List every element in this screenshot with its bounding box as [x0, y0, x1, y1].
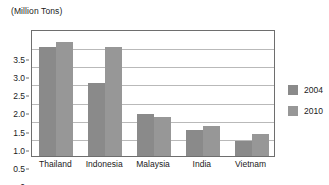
y-axis-tick: [26, 150, 29, 151]
bar-chart: (Million Tons) 3.53.02.52.01.51.00.50 Th…: [0, 0, 329, 185]
y-axis: 3.53.02.52.01.51.00.50: [0, 30, 29, 157]
legend: 20042010: [288, 82, 323, 124]
y-axis-tick: [26, 168, 29, 169]
y-axis-tick: [26, 60, 29, 61]
x-axis-tick-label: Vietnam: [235, 159, 266, 169]
y-axis-tick-label: 1.0: [13, 146, 25, 156]
y-axis-tick: [26, 96, 29, 97]
legend-swatch-icon: [288, 85, 298, 95]
y-axis-tick: [26, 78, 29, 79]
legend-item-2010[interactable]: 2010: [288, 103, 323, 119]
bar-indonesia-2004: [88, 83, 105, 156]
bars-layer: [32, 31, 274, 156]
x-axis-tick-label: Indonesia: [86, 159, 123, 169]
legend-item-2004[interactable]: 2004: [288, 82, 323, 98]
legend-label: 2010: [304, 106, 323, 116]
y-axis-tick-label: 2.5: [13, 91, 25, 101]
bar-vietnam-2004: [235, 141, 252, 156]
plot-area: [31, 30, 275, 157]
y-axis-tick: [26, 114, 29, 115]
y-axis-tick-label: 2.0: [13, 109, 25, 119]
bar-india-2004: [186, 130, 203, 156]
x-axis: ThailandIndonesiaMalaysiaIndiaVietnam: [31, 159, 275, 175]
x-axis-tick-label: Malaysia: [136, 159, 170, 169]
y-axis-tick-label: 1.5: [13, 128, 25, 138]
bar-india-2010: [203, 126, 220, 156]
bar-malaysia-2004: [137, 114, 154, 156]
bar-indonesia-2010: [105, 47, 122, 156]
bar-thailand-2010: [56, 42, 73, 156]
y-axis-tick: [26, 132, 29, 133]
y-axis-tick-label: 3.0: [13, 73, 25, 83]
legend-label: 2004: [304, 85, 323, 95]
bar-thailand-2004: [39, 47, 56, 156]
bar-vietnam-2010: [252, 134, 269, 156]
x-axis-tick-label: Thailand: [39, 159, 72, 169]
bar-malaysia-2010: [154, 117, 171, 156]
y-axis-unit-label: (Million Tons): [11, 6, 62, 16]
x-axis-tick-label: India: [193, 159, 211, 169]
legend-swatch-icon: [288, 106, 298, 116]
y-axis-tick-label: 3.5: [13, 55, 25, 65]
y-axis-tick-label: 0.5: [13, 164, 25, 174]
y-axis-tick-label: 0: [20, 182, 25, 185]
